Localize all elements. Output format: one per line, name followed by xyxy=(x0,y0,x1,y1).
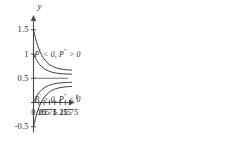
region-above-equilibrium: P' < 0, P" > 0 xyxy=(35,51,81,59)
region-below-equilibrium: P' > 0, P" < 0 xyxy=(35,96,81,104)
x-tick-label-1-75: 1.75 xyxy=(60,108,82,117)
y-axis-arrowhead xyxy=(31,15,37,21)
prime-mark: ' xyxy=(40,92,41,99)
y-tick-label-0neg5: 0.5 xyxy=(0,74,29,83)
y-tick-label-1: 1 xyxy=(0,50,29,59)
prime-mark: ' xyxy=(40,48,41,55)
y-tick-label-1neg5: 1.5 xyxy=(0,25,29,34)
double-prime-mark: " xyxy=(64,92,67,99)
solution-curves-figure: 1.510.5-0.50.250.50.7511.251.51.75ytP' <… xyxy=(0,0,229,145)
y-tick-label-neg0-5: -0.5 xyxy=(0,122,29,131)
plot-canvas xyxy=(0,0,229,145)
y-axis-label: y xyxy=(38,2,42,11)
double-prime-mark: " xyxy=(64,48,67,55)
